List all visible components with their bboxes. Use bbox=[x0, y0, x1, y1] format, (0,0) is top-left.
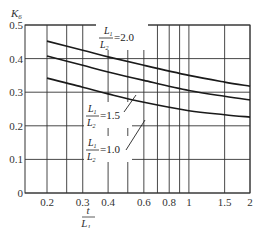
y-tick-label: 0.1 bbox=[9, 153, 23, 165]
y-tick-label: 0.4 bbox=[9, 53, 23, 65]
y-axis-title: K6 bbox=[10, 7, 22, 21]
plot-frame bbox=[25, 25, 250, 193]
y-tick-label: 0.3 bbox=[9, 86, 23, 98]
x-tick-label: 1.5 bbox=[218, 196, 232, 208]
x-tick-label: 0.2 bbox=[40, 196, 54, 208]
x-tick-label: 2 bbox=[247, 196, 253, 208]
svg-text:t: t bbox=[86, 204, 90, 216]
curve-1210 bbox=[47, 78, 250, 117]
x-tick-label: 0.8 bbox=[162, 196, 176, 208]
y-tick-label: 0 bbox=[18, 187, 24, 199]
svg-text:=1.5: =1.5 bbox=[100, 109, 120, 121]
curves bbox=[47, 41, 250, 117]
svg-text:=2.0: =2.0 bbox=[114, 31, 134, 43]
y-tick-label: 0.2 bbox=[9, 120, 23, 132]
svg-text:L1: L1 bbox=[80, 217, 91, 228]
label-ratio-2-0: L1 L2 =2.0 bbox=[96, 24, 148, 51]
svg-text:=1.0: =1.0 bbox=[100, 143, 120, 155]
x-tick-label: 1 bbox=[186, 196, 192, 208]
grid-lines bbox=[25, 25, 250, 193]
x-tick-label: 0.6 bbox=[137, 196, 151, 208]
x-tick-label: 0.4 bbox=[101, 196, 115, 208]
chart-canvas: 00.10.20.30.40.50.20.30.40.60.811.52 K6 … bbox=[0, 0, 259, 228]
curve-1215 bbox=[47, 56, 250, 100]
